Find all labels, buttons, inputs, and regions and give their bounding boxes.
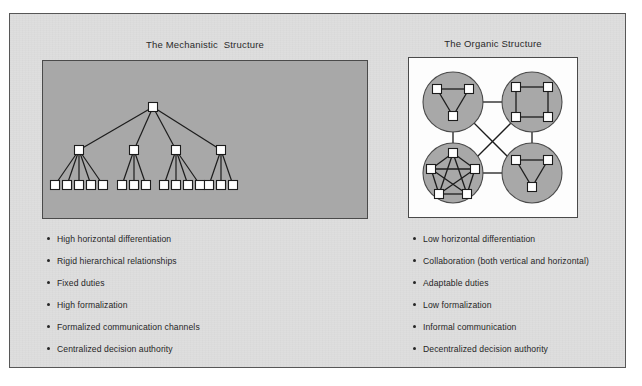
bullet-dot-icon [413, 325, 416, 328]
tree-node-leaf [172, 181, 181, 190]
bullet-dot-icon [47, 303, 50, 306]
tree-node-mid [75, 146, 84, 155]
list-item-label: Low horizontal differentiation [423, 234, 535, 244]
network-node [427, 165, 436, 174]
list-item-label: Informal communication [423, 322, 516, 332]
network-node [435, 190, 444, 199]
network-node [449, 112, 458, 121]
network-node [433, 85, 442, 94]
tree-node-leaf [75, 181, 84, 190]
mechanistic-panel-title: The Mechanistic Structure [42, 39, 368, 50]
bullet-dot-icon [413, 237, 416, 240]
network-node [512, 156, 521, 165]
tree-node-leaf [205, 181, 214, 190]
mechanistic-characteristics-list: High horizontal differentiation Rigid hi… [46, 234, 346, 366]
tree-node-leaf [87, 181, 96, 190]
list-item: Low formalization [412, 300, 642, 322]
list-item-label: Collaboration (both vertical and horizon… [423, 256, 589, 266]
tree-node-leaf [196, 181, 205, 190]
list-item: High formalization [46, 300, 346, 322]
tree-node-leaf [51, 181, 60, 190]
bullet-dot-icon [413, 281, 416, 284]
cluster-circle-top-left [423, 72, 483, 132]
tree-node-leaf [217, 181, 226, 190]
mechanistic-structure-panel [42, 60, 368, 219]
list-item: High horizontal differentiation [46, 234, 346, 256]
list-item-label: High formalization [57, 300, 128, 310]
list-item: Centralized decision authority [46, 344, 346, 366]
network-node [512, 113, 521, 122]
tree-node-leaf [229, 181, 238, 190]
tree-node-leaf [184, 181, 193, 190]
list-item-label: Centralized decision authority [57, 344, 173, 354]
tree-node-leaf [99, 181, 108, 190]
bullet-dot-icon [47, 325, 50, 328]
bullet-dot-icon [47, 237, 50, 240]
network-node [544, 156, 553, 165]
tree-node-root [149, 103, 158, 112]
figure-root: The Mechanistic Structure The Organic St… [0, 0, 642, 386]
list-item-label: Decentralized decision authority [423, 344, 548, 354]
cluster-circle-bottom-right [502, 143, 562, 203]
network-node [471, 165, 480, 174]
tree-node-mid [130, 146, 139, 155]
network-node [512, 83, 521, 92]
organic-panel-title: The Organic Structure [408, 38, 578, 49]
network-node [449, 149, 458, 158]
bullet-dot-icon [413, 259, 416, 262]
tree-node-mid [217, 146, 226, 155]
list-item-label: High horizontal differentiation [57, 234, 171, 244]
tree-node-leaf [130, 181, 139, 190]
organic-characteristics-list: Low horizontal differentiation Collabora… [412, 234, 642, 366]
bullet-dot-icon [47, 259, 50, 262]
tree-node-leaf [160, 181, 169, 190]
list-item: Adaptable duties [412, 278, 642, 300]
cluster-circles [423, 72, 562, 203]
organic-structure-panel [408, 57, 578, 218]
network-node [528, 183, 537, 192]
bullet-dot-icon [47, 347, 50, 350]
tree-node-leaf [63, 181, 72, 190]
network-node [465, 85, 474, 94]
organic-network-diagram [409, 58, 577, 217]
tree-node-mid [172, 146, 181, 155]
list-item: Low horizontal differentiation [412, 234, 642, 256]
list-item-label: Low formalization [423, 300, 492, 310]
list-item-label: Adaptable duties [423, 278, 489, 288]
network-node [544, 113, 553, 122]
list-item: Decentralized decision authority [412, 344, 642, 366]
bullet-dot-icon [47, 281, 50, 284]
list-item: Fixed duties [46, 278, 346, 300]
bullet-dot-icon [413, 347, 416, 350]
network-node [463, 190, 472, 199]
list-item-label: Rigid hierarchical relationships [57, 256, 177, 266]
list-item: Informal communication [412, 322, 642, 344]
list-item: Collaboration (both vertical and horizon… [412, 256, 642, 278]
tree-node-leaf [118, 181, 127, 190]
list-item: Rigid hierarchical relationships [46, 256, 346, 278]
cluster-circle-top-right [502, 72, 562, 132]
tree-node-leaf [142, 181, 151, 190]
mechanistic-tree-diagram [43, 61, 367, 218]
list-item: Formalized communication channels [46, 322, 346, 344]
list-item-label: Fixed duties [57, 278, 105, 288]
network-node [544, 83, 553, 92]
bullet-dot-icon [413, 303, 416, 306]
list-item-label: Formalized communication channels [57, 322, 200, 332]
